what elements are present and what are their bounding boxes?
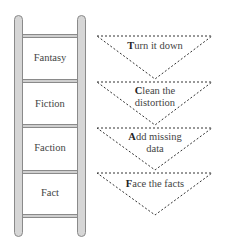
funnel-initial: A: [128, 131, 136, 142]
funnel-text-add-missing-data: Add missing data: [105, 131, 205, 155]
funnel-text-face-the-facts: Face the facts: [105, 178, 205, 190]
funnel-text-clean-the-distortion: Clean the distortion: [105, 85, 205, 109]
funnel-text-turn-it-down: Turn it down: [105, 40, 205, 52]
funnel-triangles: [0, 0, 227, 245]
